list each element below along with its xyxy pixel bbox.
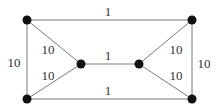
node-mid-right (135, 60, 144, 69)
graph-diagram: 1 1 1 10 10 10 10 10 10 (0, 0, 217, 110)
weight-label-top-left-diag: 10 (42, 42, 55, 57)
node-mid-left (77, 60, 86, 69)
weight-label-top-right-diag: 10 (170, 42, 183, 57)
weight-label-top: 1 (105, 4, 112, 19)
node-top-right (188, 16, 197, 25)
weight-label-bottom: 1 (105, 83, 112, 98)
weight-label-left: 10 (8, 55, 21, 70)
weight-label-bottom-right-diag: 10 (170, 68, 183, 83)
weight-label-right: 10 (198, 56, 211, 71)
node-bottom-left (23, 95, 32, 104)
node-top-left (23, 16, 32, 25)
edge-top-right-to-mid-right (139, 20, 192, 64)
node-bottom-right (188, 95, 197, 104)
edge-bottom-right-to-mid-right (139, 64, 192, 99)
weight-label-bottom-left-diag: 10 (42, 68, 55, 83)
weight-label-middle: 1 (105, 48, 112, 63)
